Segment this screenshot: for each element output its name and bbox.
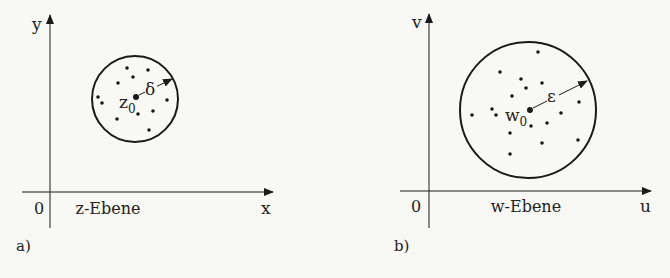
radius-label: δ bbox=[145, 79, 155, 99]
sample-point bbox=[131, 75, 135, 79]
center-subscript: 0 bbox=[128, 102, 136, 116]
v-axis-label: v bbox=[411, 12, 422, 32]
sample-point bbox=[147, 128, 151, 132]
center-subscript: 0 bbox=[520, 115, 528, 129]
center-point bbox=[527, 107, 533, 113]
origin-label: 0 bbox=[34, 199, 44, 218]
panel-a-z-plane: y x 0 z-Ebene a) z0 δ bbox=[16, 14, 273, 255]
sample-point bbox=[125, 66, 129, 70]
radius-arrow bbox=[533, 81, 587, 108]
panel-caption: a) bbox=[16, 237, 31, 255]
sample-point bbox=[151, 109, 155, 113]
sample-point bbox=[116, 81, 120, 85]
sample-point bbox=[519, 77, 523, 81]
sample-point bbox=[540, 141, 544, 145]
sample-point bbox=[545, 121, 549, 125]
sample-point bbox=[510, 94, 514, 98]
sample-point bbox=[498, 70, 502, 74]
sample-point bbox=[470, 113, 474, 117]
sample-point bbox=[536, 50, 540, 54]
plane-label: z-Ebene bbox=[76, 199, 141, 218]
center-label: z0 bbox=[119, 92, 136, 116]
sample-point bbox=[559, 111, 563, 115]
sample-point bbox=[576, 138, 580, 142]
sample-point bbox=[540, 81, 544, 85]
sample-point bbox=[136, 112, 140, 116]
x-axis-label: x bbox=[261, 198, 271, 218]
sample-point bbox=[96, 95, 100, 99]
origin-label: 0 bbox=[411, 197, 421, 216]
y-axis-label: y bbox=[31, 14, 42, 34]
plane-label: w-Ebene bbox=[491, 197, 561, 216]
sample-point bbox=[508, 131, 512, 135]
sample-point bbox=[490, 107, 494, 111]
sample-point bbox=[524, 86, 528, 90]
sample-point bbox=[508, 152, 512, 156]
sample-point bbox=[165, 98, 169, 102]
center-label: w0 bbox=[505, 105, 527, 129]
diagram: y x 0 z-Ebene a) z0 δ v u 0 w-Ebene b) w… bbox=[0, 0, 670, 278]
sample-point bbox=[100, 101, 104, 105]
sample-points bbox=[470, 50, 581, 156]
panel-b-w-plane: v u 0 w-Ebene b) w0 ε bbox=[394, 12, 651, 255]
sample-point bbox=[146, 68, 150, 72]
u-axis-label: u bbox=[640, 196, 651, 216]
sample-point bbox=[494, 113, 498, 117]
center-point bbox=[133, 94, 139, 100]
sample-point bbox=[577, 100, 581, 104]
sample-points bbox=[96, 66, 169, 132]
radius-label: ε bbox=[547, 86, 556, 106]
panel-caption: b) bbox=[394, 237, 409, 255]
sample-point bbox=[529, 124, 533, 128]
sample-point bbox=[115, 117, 119, 121]
